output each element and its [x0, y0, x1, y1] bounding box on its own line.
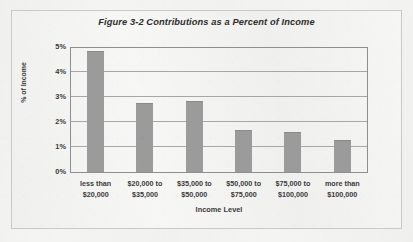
- y-axis-tick-label: 0%: [44, 168, 66, 175]
- bar[interactable]: [284, 132, 301, 172]
- bar-slot: [268, 47, 317, 172]
- x-axis-tick-label-line: more than: [312, 179, 372, 190]
- y-axis-tick-label: 5%: [44, 43, 66, 50]
- y-axis-tick-label: 4%: [44, 68, 66, 75]
- bar[interactable]: [186, 101, 203, 172]
- y-axis-tick-label: 1%: [44, 143, 66, 150]
- x-axis-title: Income Level: [71, 205, 367, 214]
- x-axis-tick-label: more than$100,000: [312, 179, 372, 200]
- x-axis-tick-label-line: $100,000: [312, 190, 372, 201]
- bar[interactable]: [235, 130, 252, 173]
- bar-slot: [71, 47, 120, 172]
- figure-container: Figure 3-2 Contributions as a Percent of…: [0, 0, 413, 242]
- chart-title: Figure 3-2 Contributions as a Percent of…: [0, 17, 413, 27]
- y-axis-tick-label: 2%: [44, 118, 66, 125]
- bar-slot: [120, 47, 169, 172]
- y-axis-title: % of Income: [20, 48, 27, 118]
- y-axis-tick-labels: 5%4%3%2%1%0%: [42, 47, 66, 172]
- bar[interactable]: [87, 51, 104, 172]
- y-axis-tick-label: 3%: [44, 93, 66, 100]
- bar[interactable]: [136, 103, 153, 172]
- bar[interactable]: [334, 140, 351, 173]
- bar-slot: [170, 47, 219, 172]
- bars-layer: [71, 47, 367, 172]
- bar-slot: [219, 47, 268, 172]
- bar-slot: [318, 47, 367, 172]
- x-axis-tick-labels: less than$20,000$20,000 to$35,000$35,000…: [71, 179, 367, 205]
